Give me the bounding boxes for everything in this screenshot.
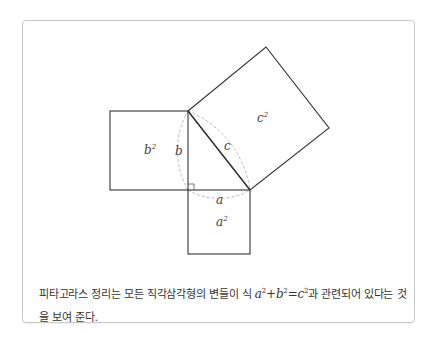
figure-caption: 피타고라스 정리는 모든 직각삼각형의 변들이 식 a2+b2=c2과 관련되어… (39, 280, 409, 329)
label-c-squared: c2 (257, 111, 269, 125)
label-a: a (216, 193, 223, 207)
equation: a2+b2=c2 (255, 287, 309, 301)
hypotenuse (188, 111, 250, 190)
label-c: c (224, 139, 231, 153)
label-b: b (175, 144, 183, 158)
label-b-squared: b2 (144, 143, 157, 157)
right-angle-marker (188, 184, 194, 190)
label-a-squared: a2 (216, 215, 228, 229)
caption-text-before: 피타고라스 정리는 모든 직각삼각형의 변들이 식 (39, 288, 255, 301)
